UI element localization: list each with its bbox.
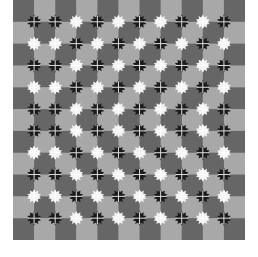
checkerboard-flower-illusion <box>13 0 245 240</box>
illusion-canvas <box>13 0 245 240</box>
